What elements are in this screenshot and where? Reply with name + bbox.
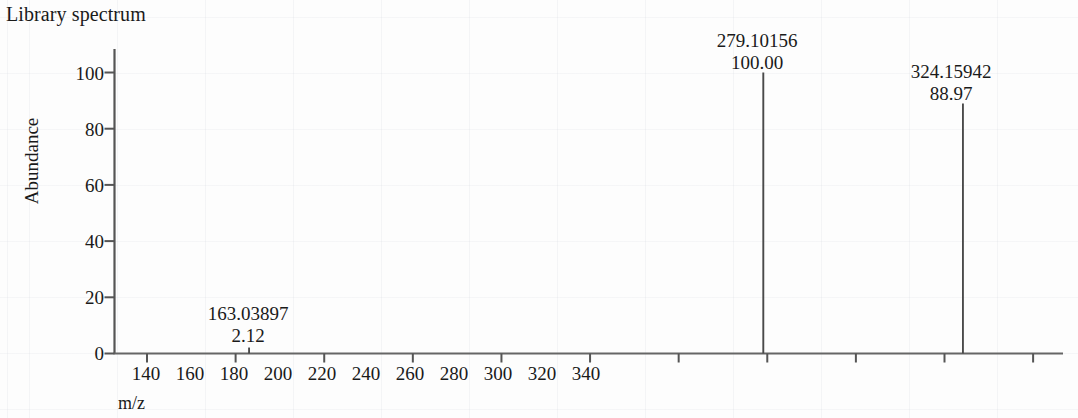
peak-mz-279: 279.10156: [647, 30, 867, 52]
peak-mz-163: 163.03897: [138, 303, 358, 325]
peak-label-163: 163.03897 2.12: [138, 303, 358, 347]
peak-mz-324: 324.15942: [841, 61, 1061, 83]
x-axis-ticks: [147, 354, 1033, 363]
x-axis-title: m/z: [118, 394, 145, 412]
y-tick-label-0: 0: [50, 344, 104, 363]
y-tick-label-80: 80: [50, 120, 104, 139]
peak-abundance-163: 2.12: [138, 325, 358, 347]
y-tick-label-40: 40: [50, 232, 104, 251]
mass-spectrum-plot: Abundance 0 20 40 60 80 100 140 160 180 …: [0, 0, 1078, 418]
y-tick-label-60: 60: [50, 176, 104, 195]
spectrum-page: Library spectrum Abundance 0 20 40 60 80…: [0, 0, 1078, 418]
peak-label-324: 324.15942 88.97: [841, 61, 1061, 105]
y-axis-title: Abundance: [21, 91, 43, 231]
y-tick-label-100: 100: [50, 64, 104, 83]
peak-label-279: 279.10156 100.00: [647, 30, 867, 74]
y-tick-label-20: 20: [50, 288, 104, 307]
x-tick-label-340: 340: [551, 364, 621, 383]
y-axis-ticks: [105, 73, 115, 354]
peak-abundance-324: 88.97: [841, 83, 1061, 105]
peak-abundance-279: 100.00: [647, 52, 867, 74]
